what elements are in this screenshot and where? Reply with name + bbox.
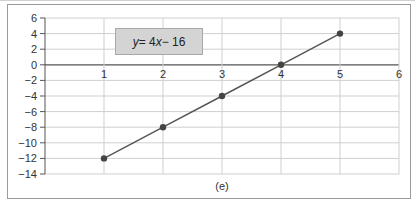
x-tick-label: 3 <box>219 68 225 80</box>
data-point <box>219 93 225 99</box>
data-point <box>337 30 343 36</box>
equation-label: y = 4x − 16 <box>115 28 203 55</box>
y-tick-label: −6 <box>24 106 37 118</box>
line-chart: 6420−2−4−6−8−10−12−14123456(e) <box>0 0 415 204</box>
data-point <box>101 155 107 161</box>
y-tick-label: −14 <box>18 168 37 180</box>
y-tick-label: −10 <box>18 137 37 149</box>
equation-const: − 16 <box>162 35 186 49</box>
y-tick-label: 6 <box>31 12 37 24</box>
y-tick-label: 4 <box>31 28 37 40</box>
y-tick-label: 2 <box>31 43 37 55</box>
x-tick-label: 2 <box>160 68 166 80</box>
data-point <box>160 124 166 130</box>
x-tick-label: 1 <box>101 68 107 80</box>
y-tick-label: −4 <box>24 90 37 102</box>
y-tick-label: 0 <box>31 59 37 71</box>
x-tick-label: 5 <box>337 68 343 80</box>
x-tick-label: 6 <box>396 68 402 80</box>
data-point <box>278 62 284 68</box>
y-tick-label: −8 <box>24 121 37 133</box>
y-tick-label: −2 <box>24 74 37 86</box>
chart-caption: (e) <box>215 180 228 192</box>
x-tick-label: 4 <box>278 68 284 80</box>
y-tick-label: −12 <box>18 152 37 164</box>
equation-coef: = 4 <box>139 35 156 49</box>
